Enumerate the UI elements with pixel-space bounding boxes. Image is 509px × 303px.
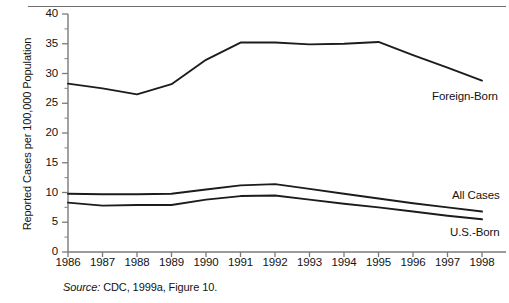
series-label-u-s-born: U.S.-Born — [450, 226, 500, 238]
source-prefix: Source: — [63, 281, 100, 293]
source-caption: Source: CDC, 1999a, Figure 10. — [63, 281, 217, 293]
y-axis-title: Reported Cases per 100,000 Population — [21, 19, 33, 249]
series-group — [68, 42, 482, 219]
y-tick-label: 40 — [24, 7, 58, 19]
series-line-all-cases — [68, 184, 482, 211]
axes-group — [62, 14, 506, 257]
figure-container: 0510152025303540 19861987198819891990199… — [0, 0, 509, 303]
series-line-u-s-born — [68, 195, 482, 219]
source-text: CDC, 1999a, Figure 10. — [100, 281, 217, 293]
series-label-foreign-born: Foreign-Born — [432, 90, 498, 102]
series-label-all-cases: All Cases — [452, 189, 500, 201]
series-line-foreign-born — [68, 42, 482, 94]
x-tick-label: 1998 — [459, 256, 505, 268]
